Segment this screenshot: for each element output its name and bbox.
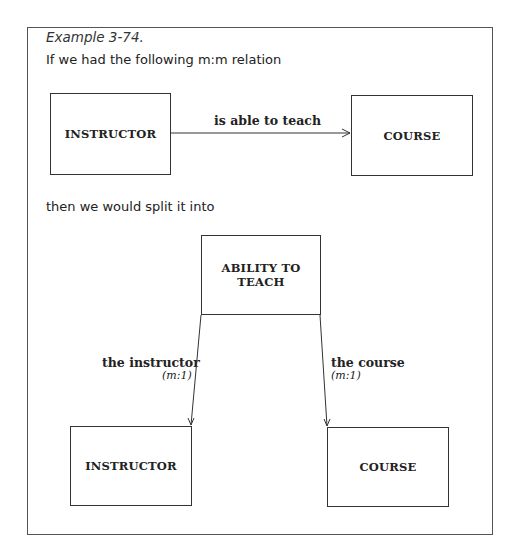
arrow-line-right [320,315,327,426]
connector-lines [0,0,520,559]
arrow-line-left [191,315,201,425]
